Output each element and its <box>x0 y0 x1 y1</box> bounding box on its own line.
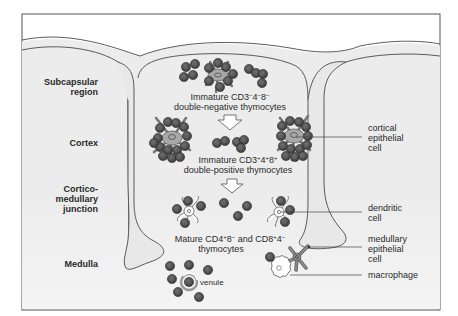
sp-label-line1: Mature CD4+8− and CD8+4− <box>175 234 286 244</box>
region-cmj-line2: medullary <box>8 194 98 204</box>
sp-label-line2: thymocytes <box>198 244 244 254</box>
label-medullary-epithelial-cell: medullary epithelial cell <box>368 234 407 264</box>
dendritic-line1: dendritic <box>368 203 402 213</box>
cortical-epithelial-cell-right <box>276 116 312 162</box>
region-cmj-line1: Cortico- <box>8 184 98 194</box>
thymus-diagram: Immature CD3−4−8− double-negative thymoc… <box>0 0 458 316</box>
region-label-medulla: Medulla <box>8 259 98 269</box>
dendritic-line2: cell <box>368 213 402 223</box>
medullary-epithelial-line2: epithelial <box>368 244 407 254</box>
region-label-cortex: Cortex <box>8 138 98 148</box>
label-dendritic-cell: dendritic cell <box>368 203 402 223</box>
region-label-cortico-medullary: Cortico- medullary junction <box>8 184 98 214</box>
cortical-epithelial-line3: cell <box>368 143 404 153</box>
label-cortical-epithelial-cell: cortical epithelial cell <box>368 123 404 153</box>
region-subcapsular-line1: Subcapsular <box>8 77 98 87</box>
medullary-epithelial-line1: medullary <box>368 234 407 244</box>
cortical-epithelial-line1: cortical <box>368 123 404 133</box>
region-medulla-line1: Medulla <box>8 259 98 269</box>
region-cortex-line1: Cortex <box>8 138 98 148</box>
region-cmj-line3: junction <box>8 204 98 214</box>
region-label-subcapsular: Subcapsular region <box>8 77 98 97</box>
medullary-epithelial-line3: cell <box>368 254 407 264</box>
cortical-epithelial-line2: epithelial <box>368 133 404 143</box>
label-macrophage: macrophage <box>368 270 418 280</box>
venule-label: venule <box>200 278 224 287</box>
macrophage-line1: macrophage <box>368 270 418 280</box>
dn-label-line2: double-negative thymocytes <box>174 102 287 112</box>
region-subcapsular-line2: region <box>8 87 98 97</box>
dp-label-line2: double-positive thymocytes <box>184 165 293 175</box>
